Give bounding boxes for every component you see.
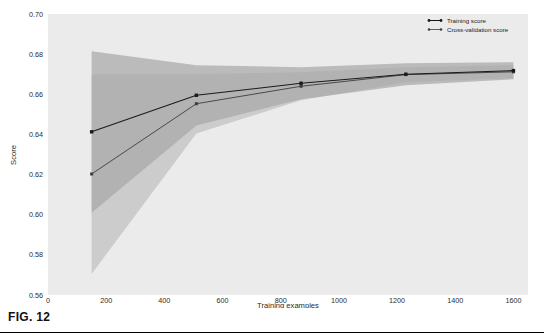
y-tick-label: 0.68 (29, 50, 43, 59)
x-tick-label: 0 (46, 296, 50, 305)
legend-marker-training-start (428, 19, 431, 22)
x-tick-label: 600 (217, 296, 229, 305)
legend-label-training: Training score (447, 17, 487, 24)
figure-caption: FIG. 12 (8, 310, 50, 324)
x-tick-label: 1600 (505, 296, 521, 305)
data-point-marker (90, 130, 93, 133)
data-point-marker (90, 172, 93, 175)
figure-learning-curve: 0.560.580.600.620.640.660.680.70 0200400… (0, 0, 544, 308)
x-tick-label: 1400 (447, 296, 463, 305)
legend-label-cross-validation: Cross-validation score (447, 26, 509, 33)
y-tick-label: 0.64 (29, 130, 43, 139)
x-tick-label: 400 (158, 296, 170, 305)
data-point-marker (404, 73, 407, 76)
x-tick-label: 1200 (389, 296, 405, 305)
data-point-marker (300, 85, 303, 88)
y-tick-label: 0.60 (29, 210, 43, 219)
x-tick-label: 200 (100, 296, 112, 305)
y-tick-label: 0.62 (29, 170, 43, 179)
data-point-marker (195, 94, 198, 97)
legend-marker-training-end (440, 19, 443, 22)
legend-marker-cv-start (428, 28, 431, 31)
y-tick-label: 0.70 (29, 10, 43, 19)
chart-canvas: 0.560.580.600.620.640.660.680.70 0200400… (0, 0, 544, 308)
y-tick-label: 0.58 (29, 250, 43, 259)
data-point-marker (512, 69, 515, 72)
x-tick-label: 1000 (331, 296, 347, 305)
data-point-marker (299, 82, 302, 85)
page-rule (0, 332, 544, 333)
legend-marker-cv-end (440, 28, 443, 31)
y-tick-label: 0.56 (29, 291, 43, 300)
data-point-marker (195, 102, 198, 105)
y-axis-title: Score (9, 145, 18, 165)
x-axis-title: Training examples (257, 301, 319, 308)
y-tick-label: 0.66 (29, 90, 43, 99)
